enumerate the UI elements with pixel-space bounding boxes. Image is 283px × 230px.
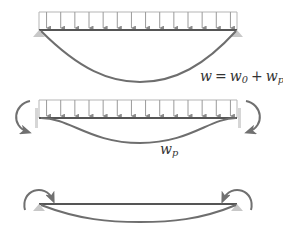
label-total-deflection: w=w0+wp xyxy=(200,68,283,85)
load-arrows xyxy=(47,12,231,28)
label-particular-deflection: wp xyxy=(160,141,178,158)
diagram-end-moments xyxy=(24,190,251,222)
pin-support-right xyxy=(231,204,243,211)
distributed-load xyxy=(39,100,237,118)
moment-arrow-left-icon xyxy=(16,101,30,132)
moment-arrow-right-icon xyxy=(246,101,260,132)
clamped-wall-left xyxy=(35,108,38,128)
diagram-particular-deflection xyxy=(16,100,260,143)
clamped-wall-right xyxy=(238,108,241,128)
load-arrows xyxy=(47,100,231,116)
distributed-load xyxy=(39,12,237,30)
deflection-curve-particular xyxy=(41,118,236,143)
beam-diagram-canvas xyxy=(0,0,283,230)
deflection-curve-end-moment xyxy=(41,205,236,222)
